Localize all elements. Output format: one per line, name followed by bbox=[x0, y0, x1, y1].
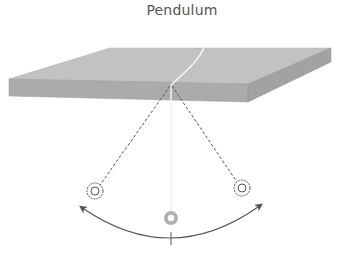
bob-right bbox=[234, 180, 250, 196]
string-left-dashed bbox=[100, 86, 170, 185]
bob-center bbox=[164, 211, 178, 225]
pendulum-diagram bbox=[0, 0, 340, 259]
support-slab bbox=[9, 48, 331, 102]
bob-left bbox=[87, 183, 103, 199]
